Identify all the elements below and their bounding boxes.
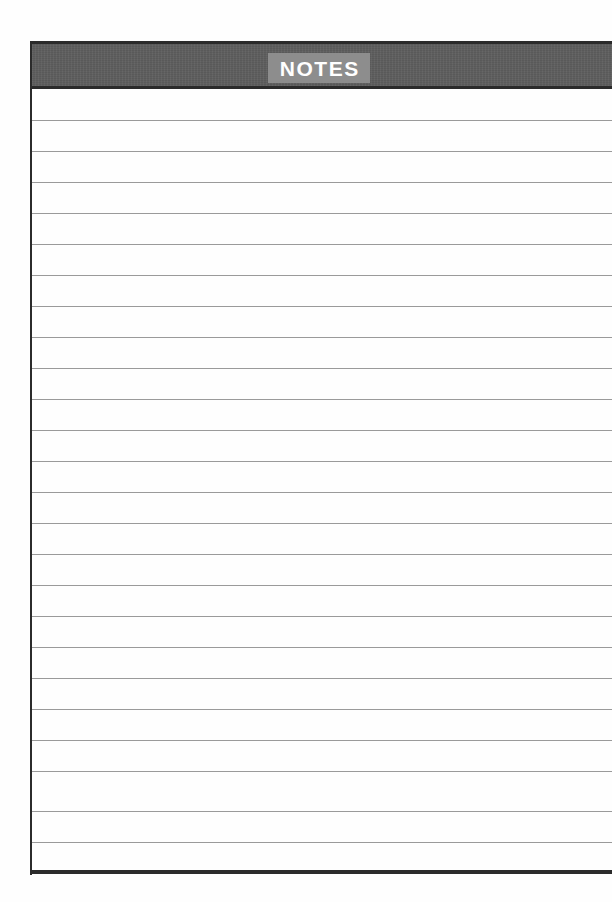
rule-line — [32, 244, 612, 245]
rule-line — [32, 151, 612, 152]
rule-line — [32, 337, 612, 338]
notes-page: NOTES — [0, 0, 612, 902]
rule-line — [32, 306, 612, 307]
rule-line — [32, 647, 612, 648]
rule-line — [32, 492, 612, 493]
rule-line — [32, 430, 612, 431]
rule-line — [32, 585, 612, 586]
left-margin-rule — [30, 89, 32, 875]
rule-line — [32, 275, 612, 276]
rule-line — [32, 213, 612, 214]
rule-line — [32, 523, 612, 524]
ruled-writing-area[interactable] — [30, 89, 612, 875]
rule-line — [32, 399, 612, 400]
rule-line — [32, 771, 612, 772]
rule-line — [32, 368, 612, 369]
rule-line — [32, 709, 612, 710]
rule-line — [32, 811, 612, 812]
rule-line — [32, 678, 612, 679]
rule-line — [32, 842, 612, 843]
rule-line — [32, 461, 612, 462]
rule-line — [32, 182, 612, 183]
notes-header-bar: NOTES — [30, 41, 612, 89]
bottom-border-rule — [30, 870, 612, 874]
rule-line — [32, 740, 612, 741]
rule-line — [32, 554, 612, 555]
rule-line — [32, 616, 612, 617]
rule-line — [32, 120, 612, 121]
page-title: NOTES — [268, 53, 370, 83]
